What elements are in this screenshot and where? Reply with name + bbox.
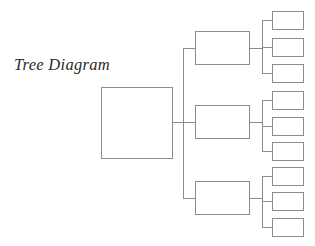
node-leaf-3-3[interactable]: [273, 219, 304, 237]
node-leaf-2-3[interactable]: [273, 143, 304, 161]
node-leaf-1-1[interactable]: [273, 12, 304, 30]
node-branch-3[interactable]: [196, 182, 250, 215]
node-leaf-2-1[interactable]: [273, 92, 304, 110]
node-branch-1[interactable]: [196, 32, 250, 65]
node-leaf-3-1[interactable]: [273, 168, 304, 186]
tree-diagram-canvas: Tree Diagram: [0, 0, 315, 246]
nodes-layer: [102, 12, 304, 237]
node-leaf-1-3[interactable]: [273, 65, 304, 83]
node-root[interactable]: [102, 88, 173, 159]
node-branch-2[interactable]: [196, 106, 250, 139]
node-leaf-3-2[interactable]: [273, 193, 304, 211]
node-leaf-1-2[interactable]: [273, 39, 304, 57]
node-leaf-2-2[interactable]: [273, 118, 304, 136]
page-title: Tree Diagram: [14, 57, 110, 74]
tree-diagram-graphic: [0, 0, 315, 246]
